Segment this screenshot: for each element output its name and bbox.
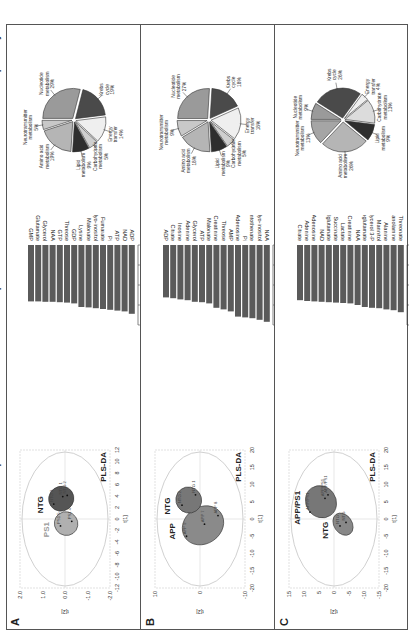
svg-text:Carbohydrate: Carbohydrate [93, 141, 98, 170]
svg-text:APP 7: APP 7 [200, 510, 205, 522]
svg-text:-15: -15 [383, 567, 389, 575]
svg-text:Threose: Threose [64, 220, 70, 241]
svg-text:-5: -5 [383, 534, 389, 539]
vip-bar-chart: 00.51.01.52.0VIPADPNADATPPiFumarateMyo-i… [6, 215, 140, 415]
svg-text:t[1]: t[1] [122, 515, 128, 523]
svg-text:N-methylglutamate: N-methylglutamate [326, 215, 332, 241]
svg-text:NAA: NAA [50, 229, 56, 241]
svg-text:ADP: ADP [163, 229, 169, 241]
panel-a: A -12-10-8-6-4-20246810122.01.00.0-1.0-2… [6, 24, 140, 630]
svg-text:Pi: Pi [242, 236, 248, 241]
svg-text:NTG 3: NTG 3 [49, 489, 54, 502]
svg-text:NAA: NAA [264, 229, 270, 241]
svg-text:10: 10 [383, 481, 389, 487]
svg-text:Amino acid: Amino acid [181, 149, 186, 173]
svg-text:Pantothenate: Pantothenate [249, 215, 255, 241]
scatter-plot: -20-15-10-505101520151050-5-10-15t[1]t[2… [275, 420, 409, 630]
svg-text:-10: -10 [249, 550, 255, 558]
pathway-pie-chart: Nucleotidemetabolism29%Krebscycle19%Ener… [6, 24, 140, 210]
svg-text:PLS-DA: PLS-DA [99, 452, 108, 482]
svg-text:Energy: Energy [108, 126, 113, 142]
scatter-plot: -20-15-10-505101520100-10t[1]t[2]PLS-DAA… [141, 420, 275, 630]
svg-text:Creatinine: Creatinine [347, 216, 353, 242]
svg-text:metabolism: metabolism [300, 126, 305, 151]
svg-text:APP/PS1: APP/PS1 [323, 475, 328, 493]
svg-text:Glycerol: Glycerol [192, 220, 198, 241]
svg-text:15: 15 [383, 464, 389, 470]
svg-text:Krebs: Krebs [226, 75, 231, 88]
svg-text:t[2]: t[2] [61, 609, 69, 615]
svg-text:2.0: 2.0 [17, 591, 23, 599]
svg-text:Carbohydrate: Carbohydrate [231, 139, 236, 168]
svg-text:t[1]: t[1] [257, 515, 263, 523]
svg-text:Alanine: Alanine [383, 222, 389, 241]
svg-text:19%: 19% [110, 84, 115, 94]
svg-text:-10: -10 [383, 550, 389, 558]
svg-text:Myo-inositol: Myo-inositol [93, 215, 99, 241]
svg-text:-20: -20 [383, 584, 389, 592]
pathway-pie-chart: Nucleotidemetabolism9%Krebscycle26%Energ… [275, 24, 409, 210]
svg-text:5%: 5% [34, 123, 39, 131]
svg-text:Citrate: Citrate [170, 225, 176, 241]
svg-text:NTG 2: NTG 2 [177, 490, 182, 503]
svg-text:APP 9: APP 9 [182, 522, 187, 534]
svg-text:-12: -12 [114, 584, 120, 592]
svg-text:0: 0 [383, 517, 389, 520]
svg-text:18%: 18% [192, 155, 197, 165]
svg-text:t[1]: t[1] [391, 515, 397, 523]
svg-text:10: 10 [114, 458, 120, 464]
svg-text:26%: 26% [338, 69, 343, 79]
svg-text:Inosine: Inosine [177, 223, 183, 241]
bar-header: Biomarker panels [0, 260, 1, 340]
svg-text:Ethanolamine: Ethanolamine [391, 215, 397, 241]
svg-text:9%: 9% [170, 128, 175, 136]
svg-text:metabolism: metabolism [98, 144, 103, 169]
figure: Discrimination of metabolomic profiles B… [6, 24, 408, 630]
svg-text:metabolism: metabolism [343, 154, 348, 179]
svg-text:-6: -6 [114, 551, 120, 556]
svg-text:-5: -5 [249, 534, 255, 539]
pie-header: Affected metabolic pathways [0, 29, 1, 160]
svg-text:5: 5 [383, 500, 389, 503]
svg-text:PS1 5: PS1 5 [56, 512, 61, 524]
svg-text:Carbohydrate: Carbohydrate [377, 92, 382, 121]
scatter-header: Discrimination of metabolomic profiles [0, 432, 1, 608]
svg-text:Lactate: Lactate [340, 223, 346, 241]
svg-text:APP/PS1: APP/PS1 [293, 490, 302, 524]
svg-text:APP/PS1: APP/PS1 [305, 492, 310, 510]
svg-text:Myo-inositol: Myo-inositol [257, 215, 263, 241]
svg-text:10: 10 [301, 591, 307, 597]
svg-text:Nucleotide: Nucleotide [293, 96, 298, 119]
svg-text:10: 10 [152, 591, 158, 597]
svg-text:12: 12 [114, 447, 120, 453]
svg-text:-10: -10 [114, 573, 120, 581]
svg-text:27%: 27% [182, 81, 187, 91]
svg-text:metabolism: metabolism [221, 151, 226, 176]
svg-text:metabolism: metabolism [28, 115, 33, 140]
svg-text:5%: 5% [104, 152, 109, 160]
svg-text:NTG: NTG [341, 512, 346, 521]
svg-text:Neurotransmitter: Neurotransmitter [159, 114, 164, 150]
svg-text:Lipid: Lipid [215, 158, 220, 168]
svg-text:Glutamate: Glutamate [35, 215, 41, 241]
svg-text:0: 0 [331, 591, 337, 594]
svg-text:-10: -10 [361, 591, 367, 599]
svg-text:Creatinine: Creatinine [213, 216, 219, 242]
svg-text:0: 0 [197, 591, 203, 594]
svg-text:4: 4 [114, 494, 120, 497]
svg-text:APP 8: APP 8 [213, 501, 218, 513]
svg-text:NAD: NAD [122, 229, 128, 241]
vip-bar-chart: 00.51.01.52.0VIPThreonateEthanolamineAla… [275, 215, 409, 415]
svg-text:ATP: ATP [114, 231, 120, 242]
svg-text:NAA: NAA [355, 229, 361, 241]
svg-text:10: 10 [249, 481, 255, 487]
svg-text:Adenine: Adenine [185, 220, 191, 241]
svg-text:transfer: transfer [113, 126, 118, 143]
svg-text:metabolism: metabolism [45, 144, 50, 169]
svg-text:-2.0: -2.0 [107, 591, 113, 600]
svg-text:-4: -4 [114, 540, 120, 545]
svg-text:transfer: transfer [250, 117, 255, 134]
svg-text:Threonate: Threonate [398, 216, 404, 242]
svg-text:18%: 18% [237, 77, 242, 87]
svg-text:NTG 2: NTG 2 [62, 480, 67, 493]
